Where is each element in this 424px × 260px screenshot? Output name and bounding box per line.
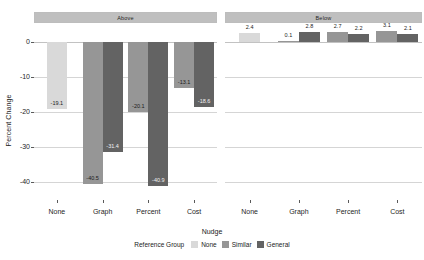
bar-below-percent-similar[interactable]	[327, 32, 348, 42]
bar-below-graph-similar[interactable]	[278, 41, 299, 42]
x-axis-tick-mark	[250, 200, 251, 203]
bar-value-label: 2.1	[392, 26, 423, 32]
bar-above-percent-general[interactable]	[148, 42, 168, 186]
gridline	[225, 147, 422, 148]
legend-swatch-icon	[222, 241, 229, 248]
bar-value-label: 2.2	[343, 26, 374, 32]
facet-strip-text: Below	[316, 15, 332, 21]
legend-item-none[interactable]: None	[191, 241, 217, 248]
legend-item-label: Similar	[232, 241, 252, 248]
bar-below-cost-similar[interactable]	[376, 31, 397, 42]
legend-swatch-icon	[191, 241, 198, 248]
gridline	[225, 77, 422, 78]
x-axis-tick-label-graph: Graph	[274, 208, 324, 215]
bar-above-graph-similar[interactable]	[83, 42, 103, 185]
x-axis-tick-mark	[103, 200, 104, 203]
legend-item-general[interactable]: General	[257, 241, 290, 248]
legend: Reference Group NoneSimilarGeneral	[0, 241, 424, 248]
bar-value-label: -40.5	[78, 176, 108, 182]
bar-value-label: -31.4	[98, 144, 128, 150]
y-axis-tick-label: 0	[0, 38, 30, 45]
legend-title: Reference Group	[134, 241, 184, 248]
x-axis-tick-label-graph: Graph	[78, 208, 128, 215]
x-axis-tick-mark	[397, 200, 398, 203]
y-axis-tick-label: -40	[0, 178, 30, 185]
bar-value-label: -18.6	[189, 99, 219, 105]
legend-item-label: General	[267, 241, 290, 248]
x-axis-tick-mark	[194, 200, 195, 203]
gridline	[225, 182, 422, 183]
y-axis-tick-label: -30	[0, 143, 30, 150]
facet-panel-below: Below2.40.12.82.72.23.12.1	[225, 12, 422, 210]
bar-below-percent-general[interactable]	[348, 34, 369, 42]
gridline	[34, 112, 217, 113]
bar-value-label: -40.9	[143, 178, 173, 184]
chart-figure: Percent Change 0-10-20-30-40 Above-19.1-…	[0, 0, 424, 260]
y-axis-tick-label: -10	[0, 73, 30, 80]
bar-below-none-none[interactable]	[239, 33, 260, 41]
facet-panel-above: Above-19.1-40.5-31.4-20.1-40.9-13.1-18.6	[34, 12, 217, 210]
facet-strip-label: Below	[225, 12, 422, 23]
x-axis-tick-mark	[57, 200, 58, 203]
bar-below-graph-general[interactable]	[299, 32, 320, 42]
bar-above-none-none[interactable]	[47, 42, 67, 109]
x-axis-tick-mark	[348, 200, 349, 203]
legend-item-similar[interactable]: Similar	[222, 241, 252, 248]
gridline	[34, 182, 217, 183]
bar-value-label: 2.4	[234, 25, 265, 31]
legend-item-label: None	[201, 241, 217, 248]
facet-strip-label: Above	[34, 12, 217, 23]
x-axis-tick-mark	[299, 200, 300, 203]
plot-area: -19.1-40.5-31.4-20.1-40.9-13.1-18.6	[34, 24, 217, 200]
bar-below-cost-general[interactable]	[397, 34, 418, 41]
facet-strip-text: Above	[117, 15, 134, 21]
bar-value-label: 2.8	[294, 24, 325, 30]
x-axis-title: Nudge	[0, 228, 424, 235]
bar-above-percent-similar[interactable]	[128, 42, 148, 113]
x-axis-tick-label-cost: Cost	[169, 208, 219, 215]
y-axis-tick-label: -20	[0, 108, 30, 115]
y-axis-title-text: Percent Change	[5, 94, 12, 146]
x-axis-tick-label-percent: Percent	[323, 208, 373, 215]
bar-value-label: -19.1	[42, 101, 72, 107]
plot-area: 2.40.12.82.72.23.12.1	[225, 24, 422, 200]
zero-line	[225, 42, 422, 43]
x-axis-tick-mark	[148, 200, 149, 203]
x-axis-tick-label-none: None	[32, 208, 82, 215]
legend-swatch-icon	[257, 241, 264, 248]
x-axis-tick-label-cost: Cost	[372, 208, 422, 215]
x-axis-tick-label-percent: Percent	[123, 208, 173, 215]
gridline	[225, 112, 422, 113]
x-axis-tick-label-none: None	[225, 208, 275, 215]
bar-above-graph-general[interactable]	[103, 42, 123, 153]
